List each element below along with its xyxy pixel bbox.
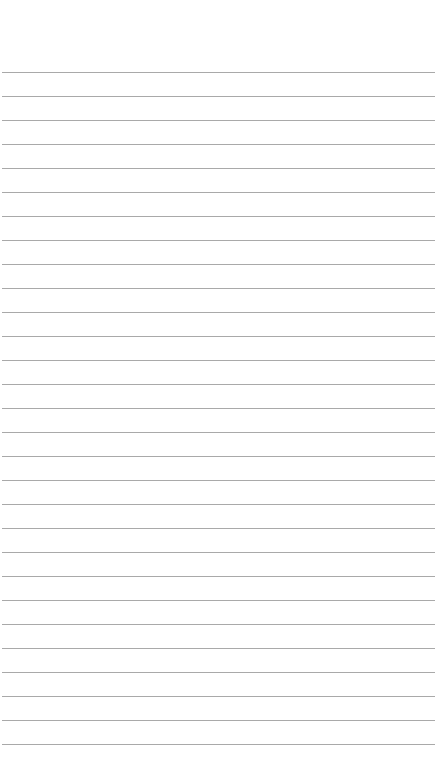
ruled-line: [2, 408, 435, 409]
ruled-line: [2, 384, 435, 385]
ruled-line: [2, 648, 435, 649]
ruled-line: [2, 144, 435, 145]
ruled-line: [2, 72, 435, 73]
ruled-line: [2, 672, 435, 673]
ruled-line: [2, 744, 435, 745]
ruled-line: [2, 480, 435, 481]
ruled-line: [2, 216, 435, 217]
ruled-line: [2, 240, 435, 241]
ruled-line: [2, 720, 435, 721]
ruled-line: [2, 336, 435, 337]
ruled-line: [2, 552, 435, 553]
ruled-line: [2, 456, 435, 457]
ruled-line: [2, 192, 435, 193]
ruled-line: [2, 264, 435, 265]
ruled-line: [2, 624, 435, 625]
ruled-line: [2, 312, 435, 313]
ruled-line: [2, 288, 435, 289]
ruled-line: [2, 360, 435, 361]
ruled-line: [2, 120, 435, 121]
ruled-line: [2, 504, 435, 505]
ruled-line: [2, 600, 435, 601]
ruled-line: [2, 576, 435, 577]
lined-paper-sheet: [0, 0, 437, 767]
ruled-line: [2, 168, 435, 169]
ruled-line: [2, 696, 435, 697]
ruled-line: [2, 432, 435, 433]
ruled-line: [2, 528, 435, 529]
ruled-line: [2, 96, 435, 97]
